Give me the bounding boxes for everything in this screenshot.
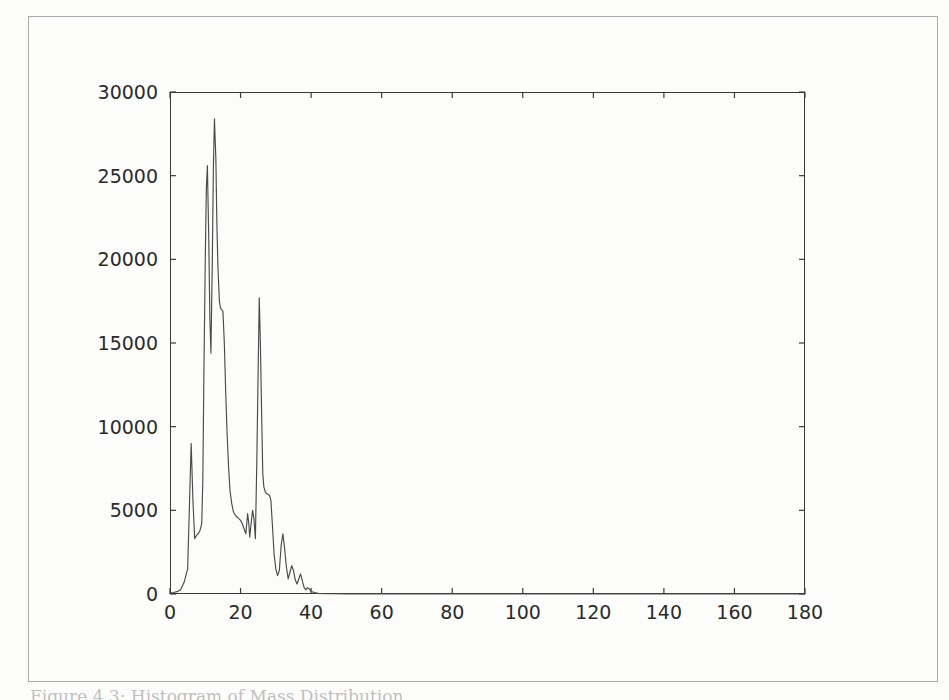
y-axis-tick-label: 10000 <box>98 417 158 436</box>
x-axis-tick-marks <box>170 92 805 594</box>
y-axis-tick-label: 5000 <box>110 501 158 520</box>
x-axis-tick-label: 100 <box>505 603 541 622</box>
data-series-line <box>170 119 805 594</box>
y-axis-tick-marks <box>170 92 805 594</box>
x-axis-tick-label: 80 <box>440 603 464 622</box>
x-axis-tick-label: 140 <box>646 603 682 622</box>
figure-container: 050001000015000200002500030000 020406080… <box>0 0 949 700</box>
x-axis-tick-label: 20 <box>228 603 252 622</box>
y-axis-tick-label: 0 <box>146 585 158 604</box>
x-axis-tick-label: 0 <box>164 603 176 622</box>
y-axis-tick-label: 20000 <box>98 250 158 269</box>
y-axis-tick-label: 15000 <box>98 334 158 353</box>
x-axis-tick-label: 60 <box>370 603 394 622</box>
x-axis-tick-label: 160 <box>716 603 752 622</box>
y-axis-tick-label: 30000 <box>98 83 158 102</box>
x-axis-tick-label: 40 <box>299 603 323 622</box>
x-axis-tick-label: 180 <box>787 603 823 622</box>
x-axis-tick-label: 120 <box>575 603 611 622</box>
plot-canvas <box>170 92 805 594</box>
y-axis-tick-label: 25000 <box>98 166 158 185</box>
figure-caption: Figure 4.3: Histogram of Mass Distributi… <box>30 686 670 700</box>
